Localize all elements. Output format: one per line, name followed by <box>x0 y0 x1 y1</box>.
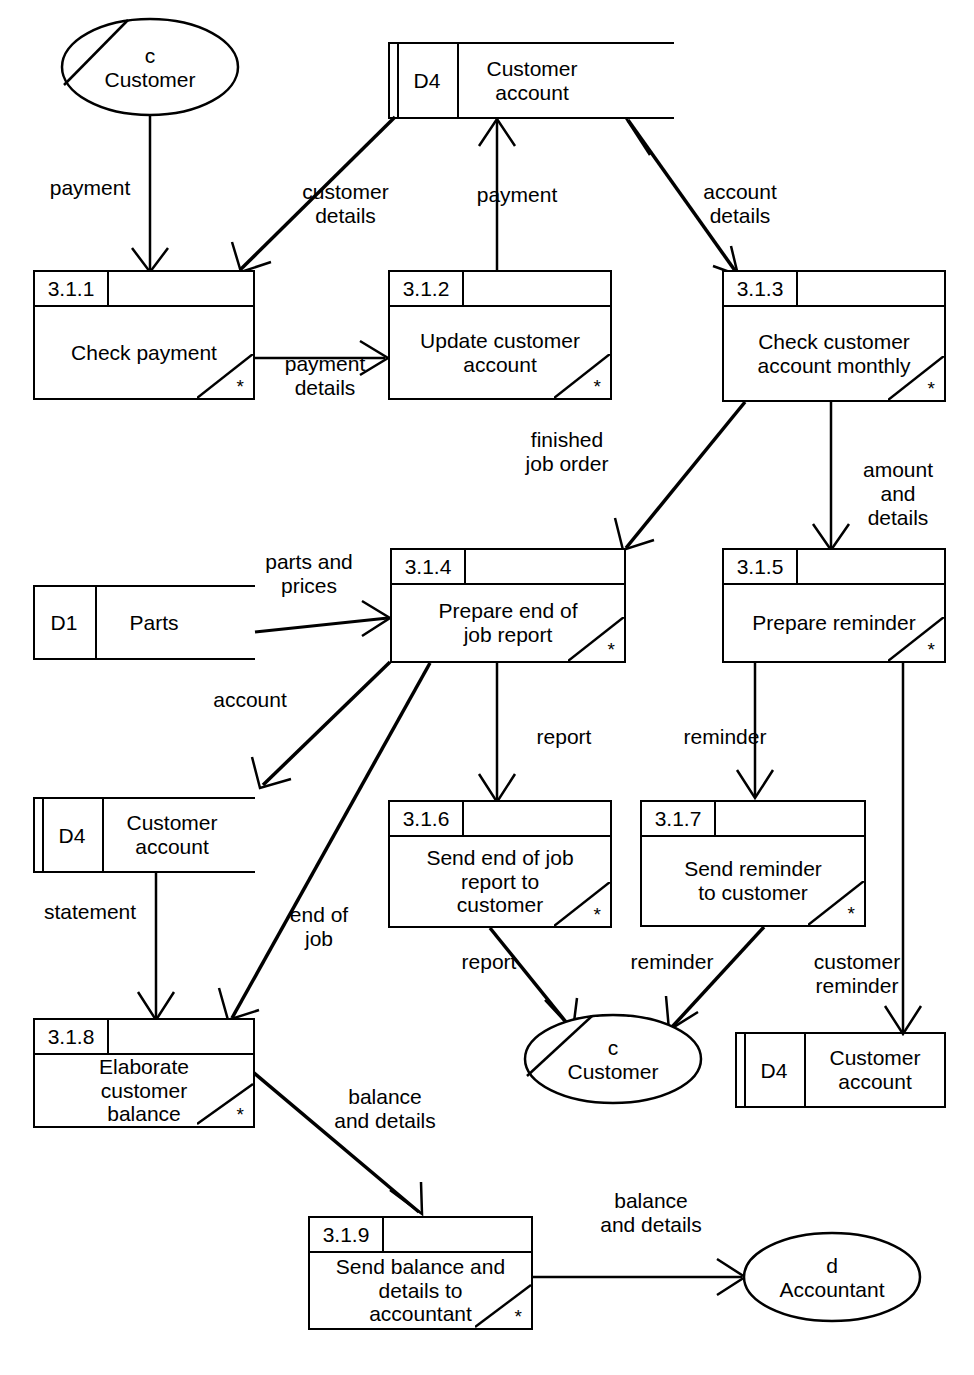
process-name: Prepare reminder <box>724 585 944 661</box>
entity-text: d Accountant <box>744 1251 920 1305</box>
process-header: 3.1.1 <box>35 272 253 307</box>
process-3-1-6[interactable]: 3.1.6 Send end of job report to customer… <box>388 800 612 928</box>
entity-id: c <box>145 44 156 68</box>
process-id: 3.1.4 <box>392 550 466 583</box>
process-marker: * <box>594 905 601 924</box>
process-marker: * <box>928 640 935 659</box>
data-store-name: Customer account <box>102 797 242 873</box>
process-name: Elaborate customer balance <box>35 1055 253 1126</box>
dfd-canvas: D4 Customer account 3.1.1 Check payment … <box>0 0 974 1375</box>
process-id: 3.1.9 <box>310 1218 384 1251</box>
process-marker: * <box>237 377 244 396</box>
process-marker: * <box>848 904 855 923</box>
process-3-1-8[interactable]: 3.1.8 Elaborate customer balance * <box>33 1018 255 1128</box>
flow-label-statement: statement <box>20 900 160 924</box>
process-header: 3.1.9 <box>310 1218 531 1253</box>
entity-name: Customer <box>567 1060 658 1084</box>
process-name: Check customer account monthly <box>724 307 944 400</box>
entity-name: Customer <box>104 68 195 92</box>
data-store-id: D4 <box>42 797 102 873</box>
process-name: Send reminder to customer <box>642 837 864 925</box>
process-header: 3.1.3 <box>724 272 944 307</box>
data-store-id: D4 <box>744 1032 804 1108</box>
process-id: 3.1.8 <box>35 1020 109 1053</box>
entity-id: d <box>826 1254 838 1278</box>
entity-id: c <box>608 1036 619 1060</box>
process-id: 3.1.5 <box>724 550 798 583</box>
data-store-id: D1 <box>33 585 95 660</box>
flow-label-account-details: account details <box>665 180 815 228</box>
data-store-name: Customer account <box>804 1032 946 1108</box>
external-entity-accountant[interactable]: d Accountant <box>744 1251 920 1305</box>
process-name: Check payment <box>35 307 253 398</box>
process-header: 3.1.2 <box>390 272 610 307</box>
process-marker: * <box>608 640 615 659</box>
flow-label-amount-and-details: amount and details <box>843 458 953 530</box>
process-id: 3.1.6 <box>390 802 464 835</box>
flow-label-reminder-mid: reminder <box>660 725 790 749</box>
process-header: 3.1.4 <box>392 550 624 585</box>
external-entity-customer-top[interactable]: c Customer <box>62 40 238 96</box>
process-header: 3.1.5 <box>724 550 944 585</box>
flow-label-payment-top: payment <box>30 176 150 200</box>
process-name: Prepare end of job report <box>392 585 624 661</box>
process-header: 3.1.7 <box>642 802 864 837</box>
process-header: 3.1.8 <box>35 1020 253 1055</box>
flow-label-customer-details: customer details <box>258 180 433 228</box>
flow-label-report-mid: report <box>509 725 619 749</box>
process-marker: * <box>515 1307 522 1326</box>
process-id: 3.1.7 <box>642 802 716 835</box>
process-id: 3.1.1 <box>35 272 109 305</box>
external-entity-customer-bottom[interactable]: c Customer <box>525 1033 701 1087</box>
data-store-d4-top[interactable]: D4 Customer account <box>388 42 674 119</box>
process-marker: * <box>928 379 935 398</box>
data-store-name: Parts <box>95 585 213 660</box>
flow-label-balance-and-details-1: balance and details <box>300 1085 470 1133</box>
flow-label-parts-and-prices: parts and prices <box>244 550 374 598</box>
data-store-id: D4 <box>397 42 457 119</box>
flow-label-reminder-low: reminder <box>607 950 737 974</box>
process-3-1-1[interactable]: 3.1.1 Check payment * <box>33 270 255 400</box>
process-3-1-5[interactable]: 3.1.5 Prepare reminder * <box>722 548 946 663</box>
entity-text: c Customer <box>525 1033 701 1087</box>
process-id: 3.1.2 <box>390 272 464 305</box>
data-store-d1-parts[interactable]: D1 Parts <box>33 585 255 660</box>
process-id: 3.1.3 <box>724 272 798 305</box>
flow-label-report-low: report <box>434 950 544 974</box>
process-3-1-7[interactable]: 3.1.7 Send reminder to customer * <box>640 800 866 927</box>
process-marker: * <box>237 1105 244 1124</box>
flow-label-payment-up: payment <box>452 183 582 207</box>
data-store-d4-lower-left[interactable]: D4 Customer account <box>33 797 255 873</box>
process-header: 3.1.6 <box>390 802 610 837</box>
flow-label-balance-and-details-2: balance and details <box>566 1189 736 1237</box>
entity-name: Accountant <box>779 1278 884 1302</box>
flow-label-payment-details: payment details <box>265 352 385 400</box>
process-3-1-3[interactable]: 3.1.3 Check customer account monthly * <box>722 270 946 402</box>
flow-label-end-of-job: end of job <box>264 903 374 951</box>
process-name: Send end of job report to customer <box>390 837 610 926</box>
data-store-d4-bottom-right[interactable]: D4 Customer account <box>735 1032 946 1108</box>
flow-label-finished-job-order: finished job order <box>497 428 637 476</box>
process-3-1-9[interactable]: 3.1.9 Send balance and details to accoun… <box>308 1216 533 1330</box>
flow-label-account: account <box>190 688 310 712</box>
process-marker: * <box>594 377 601 396</box>
flow-label-customer-reminder: customer reminder <box>782 950 932 998</box>
process-name: Send balance and details to accountant <box>310 1253 531 1328</box>
process-3-1-4[interactable]: 3.1.4 Prepare end of job report * <box>390 548 626 663</box>
entity-text: c Customer <box>62 40 238 96</box>
process-3-1-2[interactable]: 3.1.2 Update customer account * <box>388 270 612 400</box>
process-name: Update customer account <box>390 307 610 398</box>
data-store-name: Customer account <box>457 42 607 119</box>
